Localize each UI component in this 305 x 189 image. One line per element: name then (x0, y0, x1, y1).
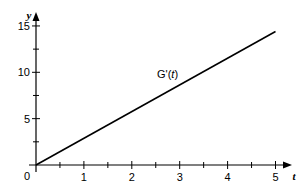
x-tick-label: 5 (272, 171, 278, 183)
y-axis-arrow-icon (33, 12, 40, 21)
y-ticks: 51015 (18, 20, 40, 142)
x-tick: 3 (177, 161, 183, 183)
series-line (36, 32, 276, 165)
series (36, 32, 276, 165)
x-tick: 5 (272, 161, 278, 183)
series-label: G'(t) (157, 68, 178, 80)
x-tick: 1 (81, 161, 87, 183)
x-tick-label: 2 (129, 171, 135, 183)
origin-label: 0 (24, 170, 30, 182)
y-axis-label: y (25, 9, 32, 21)
y-tick-label: 10 (18, 66, 30, 78)
y-tick: 15 (18, 20, 40, 32)
y-tick-label: 5 (24, 113, 30, 125)
x-tick: 4 (225, 161, 231, 183)
x-ticks: 12345 (60, 161, 279, 183)
y-tick-label: 15 (18, 20, 30, 32)
x-tick-label: 1 (81, 171, 87, 183)
y-tick: 10 (18, 66, 40, 78)
x-tick-label: 3 (177, 171, 183, 183)
x-axis-arrow-icon (283, 162, 292, 169)
x-axis-label: t (292, 170, 296, 182)
chart: 12345 51015 0 t y G'(t) (0, 0, 305, 189)
x-tick-label: 4 (225, 171, 231, 183)
y-axis (33, 12, 40, 172)
x-axis (29, 162, 292, 169)
x-tick: 2 (129, 161, 135, 183)
y-tick: 5 (24, 113, 40, 125)
